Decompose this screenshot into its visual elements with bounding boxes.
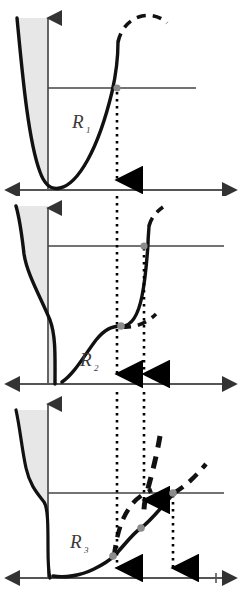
panel-3-label: R	[69, 531, 82, 552]
panel-1-label: R	[71, 111, 84, 132]
dashed-curve-1	[118, 15, 167, 42]
intersection-marker-c-3	[169, 489, 177, 497]
intersection-marker-b-3	[137, 524, 145, 532]
panel-3-label-subscript: 3	[83, 545, 89, 555]
intersection-marker-1	[113, 84, 120, 91]
panel-1: R 1	[0, 0, 242, 196]
panel-2-label-subscript: 2	[94, 363, 99, 373]
intersection-marker-lower-2	[117, 322, 125, 330]
panel-2-label: R	[79, 349, 92, 370]
dashed-branch-b-3	[174, 464, 206, 493]
dashed-curve-upper-2	[149, 207, 163, 226]
panel-2: R 2	[0, 196, 242, 392]
intersection-marker-upper-2	[140, 242, 147, 249]
dashed-spike-3	[144, 436, 160, 510]
intersection-marker-a-3	[109, 552, 117, 560]
figure-canvas: R 1 R	[0, 0, 242, 594]
panel-1-label-subscript: 1	[86, 125, 91, 135]
solid-curve-2	[62, 226, 149, 382]
panel-3: R 3	[0, 392, 242, 594]
